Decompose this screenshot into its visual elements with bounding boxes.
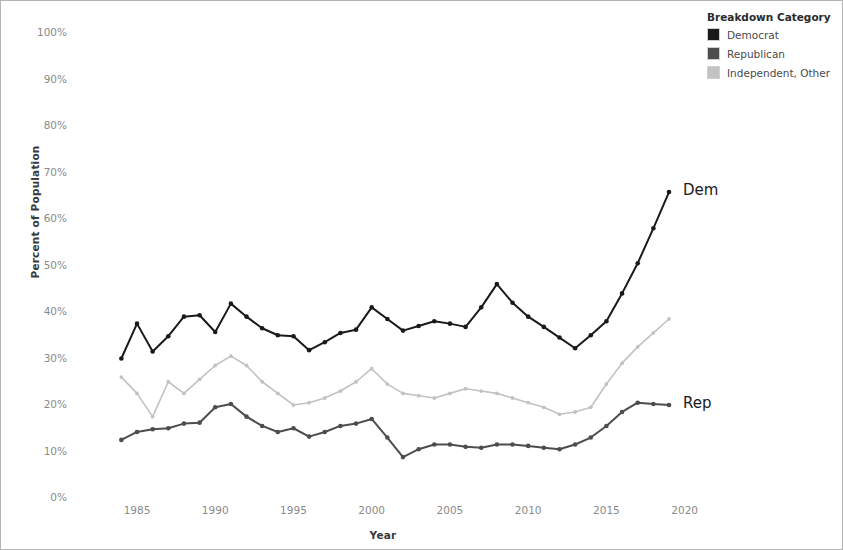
y-tick-label: 90% <box>21 73 67 85</box>
y-tick-label: 20% <box>21 398 67 410</box>
legend-item[interactable]: Democrat <box>707 28 839 41</box>
x-tick-label: 2005 <box>425 504 475 516</box>
annotation-rep: Rep <box>683 394 712 412</box>
y-tick-label: 100% <box>21 26 67 38</box>
y-tick-label: 60% <box>21 212 67 224</box>
legend-item-label: Independent, Other <box>727 67 830 79</box>
x-tick-label: 1985 <box>112 504 162 516</box>
y-tick-label: 30% <box>21 352 67 364</box>
y-tick-label: 10% <box>21 445 67 457</box>
series-democrat <box>119 190 671 361</box>
x-tick-label: 2000 <box>347 504 397 516</box>
legend-item-label: Democrat <box>727 29 779 41</box>
x-tick-label: 2015 <box>581 504 631 516</box>
legend-entries: DemocratRepublicanIndependent, Other <box>707 28 839 79</box>
legend-color-swatch <box>707 47 720 60</box>
y-tick-label: 70% <box>21 166 67 178</box>
y-tick-label: 50% <box>21 259 67 271</box>
x-tick-label: 1990 <box>190 504 240 516</box>
x-tick-label: 2010 <box>503 504 553 516</box>
series-independent-other <box>119 317 670 418</box>
legend-item[interactable]: Republican <box>707 47 839 60</box>
legend-color-swatch <box>707 28 720 41</box>
y-tick-label: 0% <box>21 491 67 503</box>
x-tick-label: 1995 <box>268 504 318 516</box>
chart-figure: Percent of Population Year 0%10%20%30%40… <box>0 0 843 550</box>
legend-item-label: Republican <box>727 48 785 60</box>
x-axis-title: Year <box>323 529 443 541</box>
y-tick-label: 80% <box>21 119 67 131</box>
legend: Breakdown Category DemocratRepublicanInd… <box>707 11 839 85</box>
series-republican <box>119 400 671 459</box>
legend-title: Breakdown Category <box>707 11 839 23</box>
x-tick-label: 2020 <box>660 504 710 516</box>
y-tick-label: 40% <box>21 305 67 317</box>
annotation-dem: Dem <box>683 181 718 199</box>
legend-item[interactable]: Independent, Other <box>707 66 839 79</box>
legend-color-swatch <box>707 66 720 79</box>
